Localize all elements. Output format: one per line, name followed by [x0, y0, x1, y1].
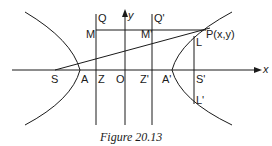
y-axis — [122, 9, 128, 125]
hyperbola-left-branch — [25, 12, 80, 125]
label-Z: Z — [98, 73, 105, 85]
label-O: O — [116, 73, 125, 85]
label-L: L — [196, 36, 202, 48]
figure-caption: Figure 20.13 — [99, 130, 162, 144]
hyperbola-diagram: Q y Q' M M' P(x,y) L S A Z O Z' A' S' x … — [0, 0, 272, 146]
x-axis-arrow-icon — [254, 67, 262, 73]
label-A: A — [81, 73, 89, 85]
label-y: y — [127, 9, 135, 21]
label-S-prime: S' — [196, 73, 205, 85]
label-Z-prime: Z' — [140, 73, 149, 85]
label-Q: Q — [98, 12, 107, 24]
label-x: x — [262, 63, 269, 75]
label-Q-prime: Q' — [154, 12, 165, 24]
label-A-prime: A' — [162, 73, 171, 85]
label-M-prime: M' — [141, 28, 152, 40]
x-axis — [12, 67, 262, 73]
label-L-prime: L' — [196, 94, 204, 106]
label-P: P(x,y) — [206, 28, 235, 40]
label-S: S — [51, 73, 58, 85]
label-M: M — [86, 28, 95, 40]
